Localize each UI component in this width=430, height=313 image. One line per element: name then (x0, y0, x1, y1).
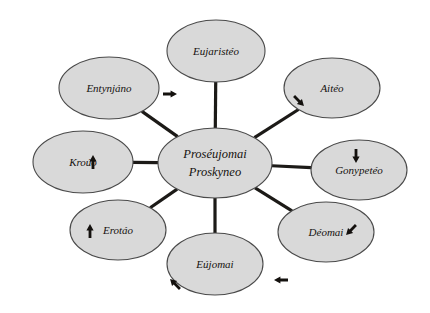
node-aiteo[interactable]: Aitéo (284, 58, 380, 118)
node-label-eujaristeo: Eujaristéo (192, 45, 239, 57)
spoke-hub-to-erotao (150, 189, 177, 208)
arrow-right-entynjano (163, 90, 177, 97)
spoke-hub-to-deomai (255, 188, 292, 211)
node-label-aiteo: Aitéo (319, 82, 344, 94)
node-label-eujomai: Eújomai (195, 258, 233, 270)
node-shape-hub (158, 128, 272, 198)
node-deomai[interactable]: Déomai (278, 202, 374, 262)
node-label-entynjano: Entynjáno (85, 82, 132, 94)
node-entynjano[interactable]: Entynjáno (59, 57, 159, 119)
node-eujaristeo[interactable]: Eujaristéo (167, 20, 265, 82)
node-krouo[interactable]: Kroúo (33, 131, 133, 193)
node-erotao[interactable]: Erotáo (70, 200, 166, 260)
hub-label-line2: Proskyneo (188, 165, 241, 179)
node-gonypeteo[interactable]: Gonypetéo (311, 140, 407, 200)
node-label-deomai: Déomai (308, 226, 344, 238)
node-hub[interactable]: ProséujomaiProskyneo (158, 128, 272, 198)
spoke-hub-to-aiteo (254, 109, 298, 137)
node-label-gonypeteo: Gonypetéo (335, 164, 383, 176)
arrow-left-eujomai-right-arrow (274, 276, 288, 283)
node-eujomai[interactable]: Eújomai (167, 233, 263, 295)
nodes-layer: EujaristéoAitéoGonypetéoDéomaiEújomaiEro… (33, 20, 407, 295)
diagram-canvas: EujaristéoAitéoGonypetéoDéomaiEújomaiEro… (0, 0, 430, 313)
hub-label-line1: Proséujomai (182, 147, 247, 161)
prayer-words-radial-diagram: EujaristéoAitéoGonypetéoDéomaiEújomaiEro… (0, 0, 430, 313)
node-label-erotao: Erotáo (102, 224, 134, 236)
spoke-hub-to-gonypeteo (272, 166, 311, 168)
spoke-hub-to-entynjano (142, 111, 178, 136)
